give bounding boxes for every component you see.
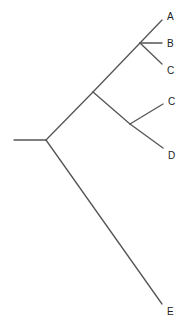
leaf-label-c1: C [167, 65, 174, 76]
leaf-label-d: D [168, 150, 175, 161]
branch-root-to-inner [46, 92, 93, 140]
leaf-label-e: E [167, 306, 174, 317]
leaf-label-b: B [167, 38, 174, 49]
leaf-label-a: A [167, 11, 174, 22]
tree-diagram: A B C C D E [0, 0, 183, 331]
branch-to-c2 [130, 104, 163, 124]
branch-to-d [130, 124, 163, 148]
branch-to-a [140, 20, 162, 43]
leaf-label-c2: C [168, 96, 175, 107]
branch-inner-to-cd [93, 92, 130, 124]
branch-to-c1 [140, 43, 162, 64]
branch-inner-to-abc [93, 43, 140, 92]
branch-to-e [46, 140, 162, 304]
